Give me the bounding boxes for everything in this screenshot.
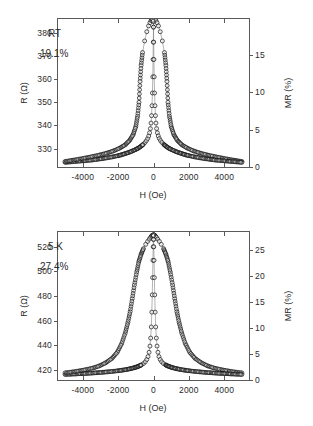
y-tick-right: [249, 55, 253, 56]
y-tick-label-left: 460: [37, 316, 52, 326]
x-tick-bottom: [224, 163, 225, 167]
y-axis-title-left-rt: R (Ω): [19, 82, 29, 104]
x-tick-label: 4000: [214, 172, 234, 182]
plot-panel-5k: 4204404604805005200510152025-4000-200002…: [0, 213, 313, 426]
data-curve-5k: [58, 232, 249, 380]
x-tick-top: [224, 19, 225, 23]
x-tick-label: 0: [151, 385, 156, 395]
plot-area-5k: [58, 232, 249, 380]
y-tick-right: [249, 92, 253, 93]
y-tick-right: [249, 354, 253, 355]
y-tick-right: [249, 167, 253, 168]
y-tick-left: [54, 296, 58, 297]
x-tick-bottom: [189, 376, 190, 380]
y-tick-left: [54, 79, 58, 80]
y-tick-right: [249, 328, 253, 329]
y-tick-label-left: 330: [37, 144, 52, 154]
x-tick-bottom: [189, 163, 190, 167]
annotation-temperature-5k: 5 K: [48, 241, 63, 252]
y-tick-label-right: 5: [255, 349, 260, 359]
x-axis-title-5k: H (Oe): [140, 403, 167, 413]
x-tick-label: -2000: [107, 385, 130, 395]
y-tick-label-right: 15: [255, 297, 265, 307]
x-tick-label: 2000: [179, 172, 199, 182]
x-tick-top: [154, 19, 155, 23]
plot-area-rt: [58, 19, 249, 167]
x-tick-label: 2000: [179, 385, 199, 395]
y-tick-left: [54, 321, 58, 322]
y-tick-left: [54, 102, 58, 103]
x-tick-top: [189, 19, 190, 23]
y-tick-label-left: 350: [37, 97, 52, 107]
y-tick-label-right: 25: [255, 245, 265, 255]
y-tick-label-left: 420: [37, 365, 52, 375]
x-tick-bottom: [224, 376, 225, 380]
y-tick-label-right: 20: [255, 271, 265, 281]
y-tick-label-right: 15: [255, 50, 265, 60]
y-tick-label-right: 10: [255, 87, 265, 97]
plot-frame-5k: 4204404604805005200510152025-4000-200002…: [57, 231, 250, 381]
data-curve-rt: [58, 19, 249, 167]
y-tick-right: [249, 380, 253, 381]
x-tick-top: [189, 232, 190, 236]
y-tick-right: [249, 302, 253, 303]
y-tick-left: [54, 370, 58, 371]
y-tick-label-right: 10: [255, 323, 265, 333]
y-axis-title-right-5k: MR (%): [283, 291, 293, 322]
x-tick-top: [83, 19, 84, 23]
y-tick-right: [249, 276, 253, 277]
y-tick-right: [249, 250, 253, 251]
x-tick-bottom: [154, 376, 155, 380]
y-tick-label-right: 0: [255, 375, 260, 385]
magnetoresistance-figure: 330340350360370380051015-4000-2000020004…: [0, 0, 313, 426]
x-tick-top: [83, 232, 84, 236]
y-tick-right: [249, 130, 253, 131]
y-tick-left: [54, 345, 58, 346]
x-tick-label: 0: [151, 172, 156, 182]
y-tick-left: [54, 149, 58, 150]
x-tick-bottom: [154, 163, 155, 167]
x-tick-top: [154, 232, 155, 236]
x-tick-bottom: [83, 376, 84, 380]
x-tick-label: -4000: [71, 172, 94, 182]
y-tick-label-right: 0: [255, 162, 260, 172]
annotation-temperature-rt: RT: [48, 28, 61, 39]
x-tick-bottom: [83, 163, 84, 167]
plot-frame-rt: 330340350360370380051015-4000-2000020004…: [57, 18, 250, 168]
y-axis-title-right-rt: MR (%): [283, 78, 293, 109]
plot-panel-rt: 330340350360370380051015-4000-2000020004…: [0, 0, 313, 213]
y-tick-label-left: 480: [37, 291, 52, 301]
x-tick-top: [224, 232, 225, 236]
x-tick-label: 4000: [214, 385, 234, 395]
y-tick-left: [54, 125, 58, 126]
annotation-mr-value-5k: 27.4%: [40, 261, 68, 272]
annotation-mr-value-rt: 19.1%: [40, 48, 68, 59]
x-tick-label: -2000: [107, 172, 130, 182]
y-tick-label-right: 5: [255, 125, 260, 135]
x-tick-bottom: [118, 163, 119, 167]
x-tick-bottom: [118, 376, 119, 380]
x-tick-top: [118, 232, 119, 236]
y-tick-label-left: 360: [37, 74, 52, 84]
y-tick-label-left: 440: [37, 340, 52, 350]
x-tick-top: [118, 19, 119, 23]
x-tick-label: -4000: [71, 385, 94, 395]
x-axis-title-rt: H (Oe): [140, 190, 167, 200]
y-axis-title-left-5k: R (Ω): [19, 295, 29, 317]
y-tick-label-left: 340: [37, 120, 52, 130]
